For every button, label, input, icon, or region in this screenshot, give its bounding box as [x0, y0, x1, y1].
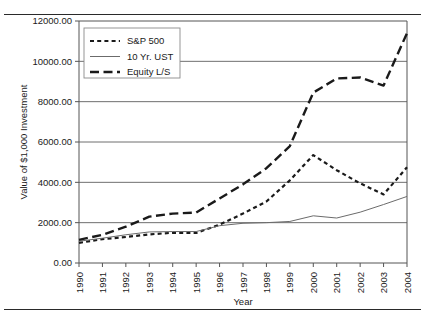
x-tick-label: 2001	[331, 272, 342, 293]
x-tick-label: 1991	[97, 272, 108, 293]
y-tick-label: 0.00	[54, 257, 73, 268]
y-tick-label: 12000.00	[32, 15, 72, 26]
x-axis-tick-marks	[79, 263, 407, 267]
x-tick-label: 2003	[378, 272, 389, 293]
figure-container: 0.002000.004000.006000.008000.0010000.00…	[0, 0, 425, 321]
x-tick-label: 1992	[120, 272, 131, 293]
chart-legend: S&P 50010 Yr. USTEquity L/S	[84, 28, 180, 78]
x-tick-label: 1996	[214, 272, 225, 293]
x-axis-title-text: Year	[233, 296, 252, 307]
x-tick-label: 1998	[261, 272, 272, 293]
x-tick-label: 1999	[284, 272, 295, 293]
x-tick-label: 1995	[191, 272, 202, 293]
x-tick-label: 2002	[355, 272, 366, 293]
legend-label-1: S&P 500	[127, 35, 164, 46]
x-tick-label: 1997	[238, 272, 249, 293]
y-tick-label: 4000.00	[38, 177, 72, 188]
legend-label-2: 10 Yr. UST	[127, 51, 173, 62]
y-tick-label: 10000.00	[32, 56, 72, 67]
y-tick-label: 2000.00	[38, 217, 72, 228]
y-axis-tick-marks	[75, 21, 79, 263]
x-axis-title: Year	[233, 296, 252, 307]
x-tick-label: 1994	[167, 272, 178, 293]
x-tick-label: 1993	[144, 272, 155, 293]
y-axis-title-text: Value of $1,000 Investment	[18, 84, 29, 199]
y-axis-tick-labels: 0.002000.004000.006000.008000.0010000.00…	[32, 15, 72, 268]
legend-label-3: Equity L/S	[127, 66, 170, 77]
y-axis-title: Value of $1,000 Investment	[18, 84, 29, 199]
y-tick-label: 6000.00	[38, 136, 72, 147]
line-chart: 0.002000.004000.006000.008000.0010000.00…	[0, 0, 425, 321]
x-tick-label: 2000	[308, 272, 319, 293]
x-axis-tick-labels: 1990199119921993199419951996199719981999…	[74, 272, 413, 293]
x-tick-label: 2004	[402, 272, 413, 293]
y-tick-label: 8000.00	[38, 96, 72, 107]
x-tick-label: 1990	[74, 272, 85, 293]
